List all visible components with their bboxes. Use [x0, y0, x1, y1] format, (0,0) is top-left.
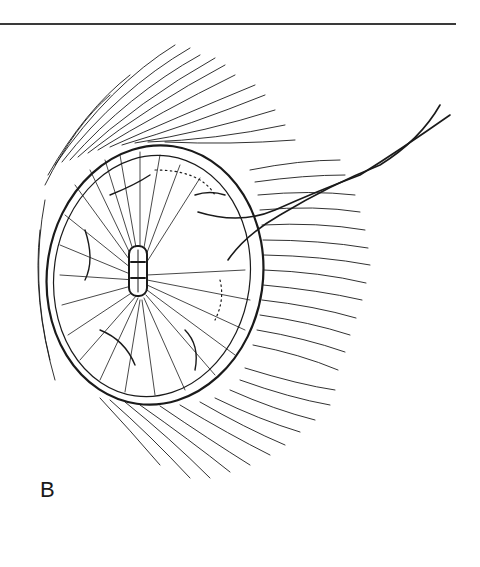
anatomical-illustration — [0, 0, 480, 567]
opening-rim-outer — [30, 131, 280, 419]
outer-fibers-bottom — [100, 368, 335, 478]
outer-fibers-right — [250, 160, 370, 370]
figure-panel-label: B — [40, 479, 55, 501]
outer-fibers-top — [45, 45, 295, 185]
center-knot — [129, 246, 147, 296]
